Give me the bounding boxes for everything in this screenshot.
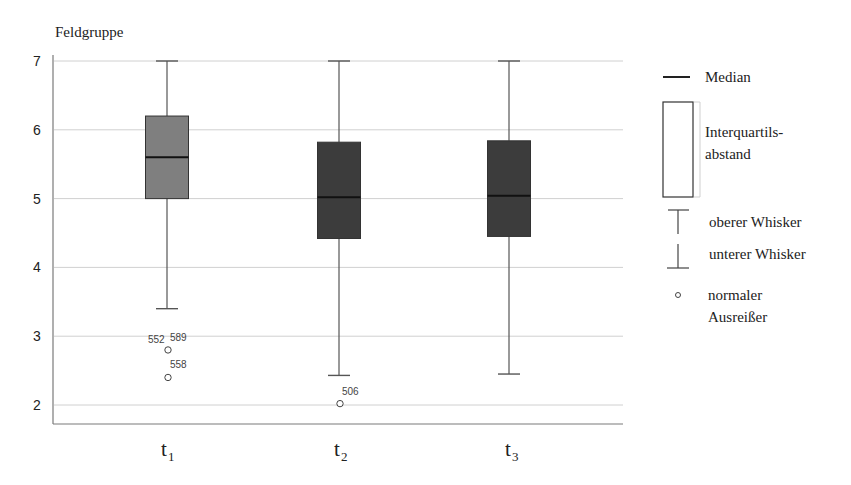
box-t1: 552589558 [146,61,189,381]
box-t3 [488,61,531,374]
outlier-point [165,374,171,380]
outlier-label: 589 [170,332,187,343]
box-t2: 506 [318,61,361,407]
legend-iqr-label-line1: Interquartils- [705,124,783,140]
x-category-subscript: 1 [168,449,175,464]
boxplot-chart: Feldgruppe 234567 552589558506 t1t2t3 Me… [0,0,851,485]
boxes: 552589558506 [146,61,531,407]
x-category-label: t [334,437,340,461]
y-tick-label: 5 [33,191,41,207]
outlier-label: 506 [342,386,359,397]
y-tick-label: 7 [33,53,41,69]
legend-outlier-icon [676,293,681,298]
x-category-label: t [161,437,167,461]
legend-outlier-label-line1: normaler [708,287,762,303]
legend-iqr-box-icon [663,102,693,197]
outlier-label: 558 [170,359,187,370]
iqr-box [318,142,361,238]
y-tick-label: 6 [33,122,41,138]
legend-outlier-label-line2: Ausreißer [708,309,767,325]
y-tick-label: 4 [33,259,41,275]
outlier-point [165,347,171,353]
y-axis-title: Feldgruppe [55,24,124,40]
outlier-point [337,400,343,406]
y-axis-ticks: 234567 [33,53,41,413]
x-category-label: t [505,437,511,461]
iqr-box [488,141,531,237]
legend: MedianInterquartils-abstandoberer Whiske… [663,69,806,325]
y-tick-label: 2 [33,397,41,413]
legend-upper-whisker-label: oberer Whisker [709,214,802,230]
legend-iqr-label-line2: abstand [705,146,751,162]
x-axis-categories: t1t2t3 [161,437,519,464]
x-category-subscript: 3 [512,449,519,464]
outlier-label: 552 [148,334,165,345]
legend-iqr-bracket-icon [694,102,700,197]
legend-median-label: Median [705,69,751,85]
x-category-subscript: 2 [341,449,348,464]
y-tick-label: 3 [33,328,41,344]
legend-lower-whisker-label: unterer Whisker [709,246,806,262]
